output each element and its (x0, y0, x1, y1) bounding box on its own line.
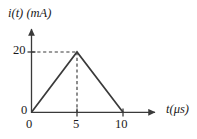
x-tick-label-10: 10 (115, 118, 128, 131)
y-tick-label-20: 20 (13, 44, 26, 57)
x-tick-label-0: 0 (26, 118, 32, 131)
x-tick-label-5: 5 (73, 118, 79, 131)
x-axis-title-text: t(μs) (166, 102, 189, 116)
y-tick-label-0: 0 (21, 104, 27, 117)
x-axis-title: t(μs) (166, 103, 189, 116)
y-axis-title-text: i(t) (mA) (8, 6, 51, 20)
y-axis-title: i(t) (mA) (8, 7, 51, 20)
current-waveform-figure: i(t) (mA) t(μs) 20 0 0 5 10 (0, 0, 197, 139)
